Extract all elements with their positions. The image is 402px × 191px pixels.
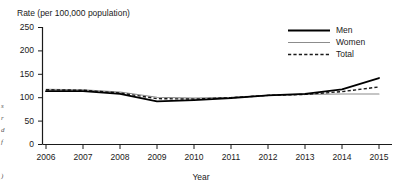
y-tick-label-100: 100 bbox=[10, 93, 34, 102]
legend-label-women: Women bbox=[336, 38, 365, 47]
x-tick-label-2013: 2013 bbox=[288, 153, 322, 162]
legend-swatches bbox=[288, 31, 330, 55]
x-tick-label-2007: 2007 bbox=[66, 153, 100, 162]
x-tick-label-2008: 2008 bbox=[103, 153, 137, 162]
x-axis-ticks bbox=[46, 145, 379, 150]
y-tick-label-200: 200 bbox=[10, 46, 34, 55]
y-tick-label-250: 250 bbox=[10, 23, 34, 32]
legend-label-men: Men bbox=[336, 26, 353, 35]
x-tick-label-2011: 2011 bbox=[214, 153, 248, 162]
margin-fragment-1: s bbox=[1, 102, 4, 110]
x-tick-label-2014: 2014 bbox=[325, 153, 359, 162]
margin-fragment-3: d bbox=[1, 126, 5, 134]
line-chart: Rate (per 100,000 population) Year bbox=[0, 0, 402, 191]
y-tick-label-150: 150 bbox=[10, 70, 34, 79]
y-axis-ticks bbox=[38, 28, 43, 145]
margin-fragment-4: f bbox=[1, 138, 3, 146]
x-tick-label-2012: 2012 bbox=[251, 153, 285, 162]
x-tick-label-2006: 2006 bbox=[29, 153, 63, 162]
legend-label-total: Total bbox=[336, 50, 354, 59]
margin-fragment-5: ) bbox=[1, 172, 3, 180]
x-tick-label-2010: 2010 bbox=[177, 153, 211, 162]
y-tick-label-0: 0 bbox=[10, 140, 34, 149]
x-tick-label-2009: 2009 bbox=[140, 153, 174, 162]
margin-fragment-2: r bbox=[1, 114, 4, 122]
y-tick-label-50: 50 bbox=[10, 117, 34, 126]
x-tick-label-2015: 2015 bbox=[362, 153, 396, 162]
